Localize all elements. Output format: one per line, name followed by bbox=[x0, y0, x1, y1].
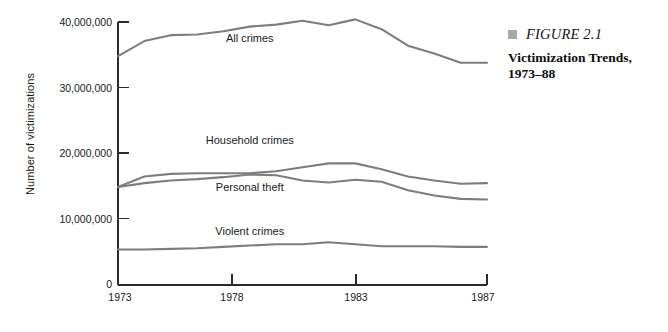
series-line-all-crimes bbox=[118, 19, 487, 62]
series-label-household-crimes: Household crimes bbox=[206, 134, 295, 146]
y-tick-label-20m: 20,000,000 bbox=[59, 147, 112, 159]
series-line-personal-theft bbox=[118, 175, 487, 200]
y-axis-title: Number of victimizations bbox=[24, 34, 36, 234]
x-tick-label-1978: 1978 bbox=[220, 291, 244, 303]
x-tick-label-1973: 1973 bbox=[108, 291, 132, 303]
x-tick-label-1983: 1983 bbox=[344, 291, 368, 303]
y-tick-label-40m: 40,000,000 bbox=[59, 16, 112, 28]
series-line-violent-crimes bbox=[118, 242, 487, 249]
figure-container: 40,000,000 30,000,000 20,000,000 10,000,… bbox=[0, 0, 668, 332]
y-origin-label: 0 bbox=[106, 278, 112, 290]
y-tick-label-10m: 10,000,000 bbox=[59, 213, 112, 225]
x-tick-marks bbox=[232, 274, 487, 285]
figure-title-label: Victimization Trends, 1973–88 bbox=[508, 50, 660, 82]
figure-caption: FIGURE 2.1 Victimization Trends, 1973–88 bbox=[508, 26, 660, 82]
filled-square-icon bbox=[508, 30, 517, 39]
series-label-personal-theft: Personal theft bbox=[216, 181, 284, 193]
series-label-all-crimes: All crimes bbox=[226, 32, 274, 44]
series-label-violent-crimes: Violent crimes bbox=[215, 225, 284, 237]
caption-header-row: FIGURE 2.1 bbox=[508, 26, 660, 43]
y-tick-label-30m: 30,000,000 bbox=[59, 82, 112, 94]
series-line-household-crimes bbox=[118, 163, 487, 187]
chart-plot-area: 40,000,000 30,000,000 20,000,000 10,000,… bbox=[0, 0, 500, 332]
figure-number-label: FIGURE 2.1 bbox=[526, 26, 602, 43]
line-chart-svg: 40,000,000 30,000,000 20,000,000 10,000,… bbox=[0, 0, 500, 332]
x-tick-label-1987: 1987 bbox=[471, 291, 495, 303]
